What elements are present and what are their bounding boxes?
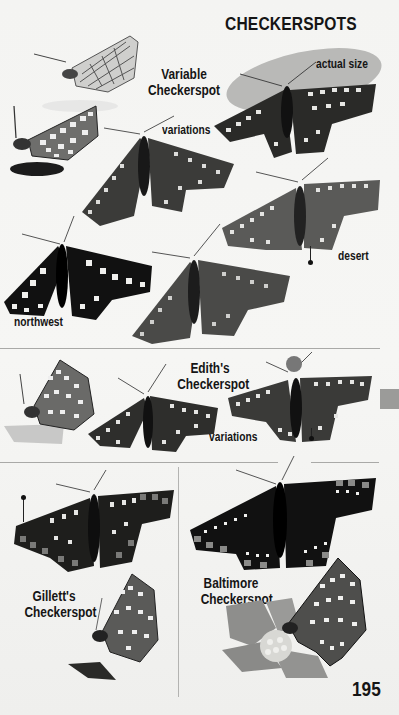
column-divider	[178, 467, 179, 697]
butterfly-gilletts-side-view	[66, 570, 162, 682]
page-title: CHECKERSPOTS	[225, 14, 357, 35]
species-name-line1: Baltimore	[201, 576, 262, 592]
ediths-variations-label: variations	[209, 431, 257, 445]
gilletts-pointer	[23, 498, 24, 522]
species-name-line1: Variable	[148, 67, 220, 83]
section-divider-1	[0, 348, 380, 349]
section-thumb-tab	[380, 389, 399, 409]
field-guide-page: CHECKERSPOTS actual size Variable Checke…	[0, 0, 399, 715]
desert-pointer	[310, 246, 311, 262]
species-name-line2: Checkerspot	[148, 83, 220, 99]
ediths-pointer	[311, 428, 312, 438]
species-label-variable-checkerspot: Variable Checkerspot	[148, 67, 220, 98]
butterfly-ediths-variation-1	[86, 364, 221, 454]
butterfly-gilletts-open	[10, 470, 176, 574]
desert-label: desert	[338, 250, 369, 264]
butterfly-side-view-pale	[30, 34, 140, 104]
actual-size-label: actual size	[316, 58, 368, 72]
butterfly-baltimore-side-view	[280, 556, 370, 670]
page-number: 195	[352, 678, 381, 701]
butterfly-variation-2	[130, 222, 295, 344]
northwest-label: northwest	[14, 316, 63, 330]
butterfly-variation-1	[78, 116, 238, 228]
butterfly-ediths-side-view	[4, 354, 96, 446]
